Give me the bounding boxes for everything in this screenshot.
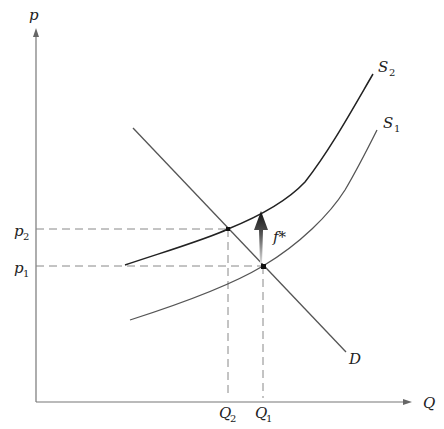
label-q1: Q 1 — [255, 404, 272, 424]
x-axis-label: Q — [423, 394, 435, 412]
y-axis-arrow-icon — [33, 28, 39, 37]
y-axis-label: p — [29, 6, 39, 24]
label-s2: S 2 — [378, 58, 395, 78]
label-s1: S 1 — [383, 114, 400, 134]
label-q2: Q 2 — [219, 404, 236, 424]
equilibrium-point-original — [261, 264, 266, 269]
shift-arrow — [254, 211, 268, 263]
label-p1: p 1 — [14, 259, 29, 279]
supply-curve-s2 — [125, 74, 373, 265]
svg-text:S: S — [383, 114, 393, 132]
svg-text:1: 1 — [23, 268, 29, 279]
label-d: D — [348, 350, 361, 368]
label-shift-f-star: f* — [272, 228, 287, 246]
svg-text:2: 2 — [23, 231, 29, 242]
axes — [33, 28, 412, 405]
svg-text:1: 1 — [266, 413, 272, 424]
supply-curve-s1 — [130, 130, 377, 320]
svg-text:2: 2 — [389, 67, 395, 78]
svg-text:2: 2 — [230, 413, 236, 424]
svg-text:S: S — [378, 58, 388, 76]
label-p2: p 2 — [14, 222, 29, 242]
supply-demand-diagram: p Q S 2 S 1 D p 2 p 1 Q 2 Q 1 f* — [0, 0, 444, 429]
svg-text:1: 1 — [394, 123, 400, 134]
demand-curve — [133, 128, 346, 352]
x-axis-arrow-icon — [403, 399, 412, 405]
equilibrium-point-new — [226, 227, 230, 231]
arrow-up-icon — [254, 211, 268, 263]
